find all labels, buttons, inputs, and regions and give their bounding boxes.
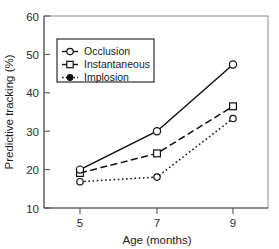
x-axis-ticks [80,208,233,214]
occlusion-point-7 [153,128,160,135]
x-axis-tick-labels: 5 7 9 [77,217,236,229]
x-axis-title: Age (months) [122,234,191,246]
filled-circle-marker-icon [67,75,73,81]
instantaneous-line [80,106,233,173]
y-axis-title: Predictive tracking (%) [3,54,15,169]
legend-label-instantaneous: Instantaneous [84,58,150,70]
y-tick-label-10: 10 [26,203,39,215]
occlusion-point-9 [229,61,236,68]
open-circle-marker-icon [67,48,73,54]
implosion-marker-ring-5 [77,179,83,185]
instantaneous-point-7 [154,150,161,157]
line-chart: 60 50 40 30 20 10 5 7 9 Age (months) Pre… [0,0,279,249]
legend-label-occlusion: Occlusion [84,45,130,57]
y-tick-label-50: 50 [26,49,39,61]
legend-label-implosion: Implosion [84,71,129,83]
implosion-marker-ring-7 [154,174,160,180]
y-axis-ticks [44,16,50,208]
x-tick-label-7: 7 [154,217,160,229]
y-tick-label-20: 20 [26,164,39,176]
instantaneous-point-9 [230,103,237,110]
occlusion-point-5 [76,166,83,173]
x-tick-label-5: 5 [77,217,83,229]
implosion-marker-ring-9 [230,115,236,121]
series-instantaneous [77,103,237,177]
y-tick-label-40: 40 [26,87,39,99]
chart-legend: Occlusion Instantaneous Implosion [57,39,154,83]
y-tick-label-30: 30 [26,126,39,138]
chart-figure: 60 50 40 30 20 10 5 7 9 Age (months) Pre… [0,0,279,249]
y-axis-tick-labels: 60 50 40 30 20 10 [26,11,39,215]
y-tick-label-60: 60 [26,11,39,23]
x-tick-label-9: 9 [230,217,236,229]
open-square-marker-icon [67,61,73,67]
